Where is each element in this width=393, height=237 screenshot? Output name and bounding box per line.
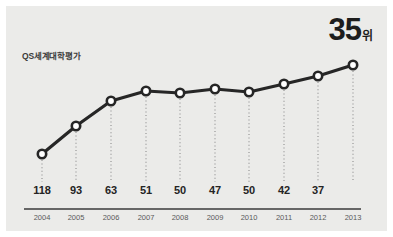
data-point-marker[interactable]	[245, 88, 253, 96]
x-axis-tick-label: 2010	[241, 213, 258, 222]
data-point-value-label: 93	[70, 184, 82, 196]
data-point-value-label: 47	[209, 184, 221, 196]
data-point-marker[interactable]	[211, 85, 219, 93]
leader-lines-group	[42, 71, 353, 182]
data-point-marker[interactable]	[314, 72, 322, 80]
x-axis-tick-label: 2011	[276, 213, 292, 222]
x-axis-tick-label: 2006	[103, 213, 120, 222]
data-point-marker[interactable]	[176, 89, 184, 97]
x-axis-tick-label: 2013	[345, 213, 362, 222]
data-point-marker[interactable]	[72, 122, 80, 130]
x-axis-tick-label: 2012	[310, 213, 327, 222]
chart-card: QS세계대학평가 35위 1189363515047504237 2004200…	[6, 6, 387, 231]
data-point-value-label: 50	[243, 184, 255, 196]
data-point-marker[interactable]	[280, 80, 288, 88]
x-axis-tick-label: 2007	[138, 213, 155, 222]
data-point-marker[interactable]	[142, 87, 150, 95]
data-point-value-label: 37	[312, 184, 324, 196]
data-point-value-label: 118	[33, 184, 51, 196]
x-axis-tick-label: 2008	[172, 213, 189, 222]
data-point-marker[interactable]	[349, 61, 357, 69]
data-point-value-label: 51	[140, 184, 152, 196]
data-point-marker[interactable]	[38, 150, 46, 158]
line-chart-plot	[6, 6, 387, 231]
x-axis-tick-label: 2009	[207, 213, 224, 222]
x-axis-tick-label: 2004	[34, 213, 51, 222]
series-line	[42, 65, 353, 154]
data-point-value-label: 42	[278, 184, 290, 196]
data-point-value-label: 50	[174, 184, 186, 196]
x-axis-tick-label: 2005	[68, 213, 85, 222]
data-point-value-label: 63	[105, 184, 117, 196]
data-point-marker[interactable]	[107, 97, 115, 105]
data-point-markers-group	[38, 61, 357, 158]
